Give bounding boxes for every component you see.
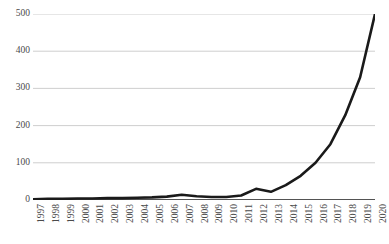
- x-axis: 1997199819992000200120022003200420052006…: [33, 202, 375, 244]
- x-tick-label: 2008: [201, 204, 211, 223]
- x-tick-label: 2020: [379, 204, 389, 223]
- x-tick-label: 2006: [171, 204, 181, 223]
- x-tick-label: 2011: [245, 204, 255, 223]
- y-tick-label: 200: [0, 121, 30, 131]
- x-tick-label: 2000: [82, 204, 92, 223]
- y-tick-label: 500: [0, 9, 30, 19]
- y-tick-label: 100: [0, 158, 30, 168]
- y-tick-label: 0: [0, 195, 30, 205]
- x-tick-label: 2015: [305, 204, 315, 223]
- plot-area: [33, 14, 375, 200]
- x-tick-label: 2001: [96, 204, 106, 223]
- x-tick-label: 2003: [126, 204, 136, 223]
- x-tick-label: 2014: [290, 204, 300, 223]
- series-path: [33, 14, 375, 199]
- x-tick-label: 2013: [275, 204, 285, 223]
- x-tick-label: 2010: [230, 204, 240, 223]
- x-tick-label: 2002: [111, 204, 121, 223]
- x-tick-label: 2007: [186, 204, 196, 223]
- x-tick-label: 2005: [156, 204, 166, 223]
- x-tick-label: 2018: [349, 204, 359, 223]
- x-tick-label: 2016: [320, 204, 330, 223]
- data-series-line: [33, 14, 375, 200]
- x-tick-label: 2004: [141, 204, 151, 223]
- x-tick-label: 2017: [334, 204, 344, 223]
- x-tick-label: 1999: [67, 204, 77, 223]
- x-tick-label: 1997: [37, 204, 47, 223]
- y-axis: 0100200300400500: [0, 0, 30, 244]
- x-tick-label: 2012: [260, 204, 270, 223]
- y-tick-label: 400: [0, 46, 30, 56]
- x-tick-label: 2009: [215, 204, 225, 223]
- x-tick-label: 2019: [364, 204, 374, 223]
- y-tick-label: 300: [0, 84, 30, 94]
- x-tick-label: 1998: [52, 204, 62, 223]
